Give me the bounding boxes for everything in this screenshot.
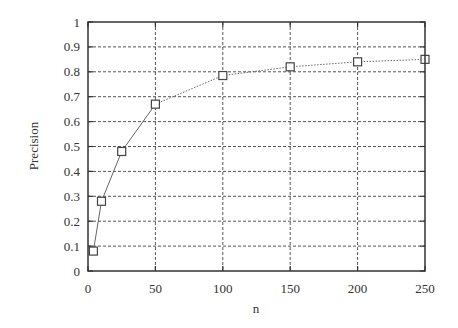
y-tick-label: 0.6: [64, 114, 81, 129]
y-axis-title: Precision: [26, 121, 41, 170]
series-line-segment: [155, 76, 222, 105]
series-line-segment: [101, 151, 121, 201]
y-tick-label: 0.3: [64, 189, 80, 204]
x-axis-tick-labels: 050100150200250: [85, 281, 435, 296]
data-series: [89, 55, 429, 255]
y-axis-tick-labels: 00.10.20.30.40.50.60.70.80.91: [64, 15, 81, 279]
series-line-segment: [223, 67, 290, 76]
y-tick-label: 0.2: [64, 214, 80, 229]
y-tick-label: 0.7: [64, 89, 81, 104]
x-tick-label: 50: [149, 281, 162, 296]
series-line-segment: [93, 201, 101, 251]
x-tick-label: 150: [280, 281, 300, 296]
y-tick-label: 0.5: [64, 139, 80, 154]
y-tick-label: 0.4: [64, 164, 81, 179]
x-axis-title: n: [253, 301, 260, 316]
square-marker-icon: [97, 197, 105, 205]
y-tick-label: 0.1: [64, 239, 80, 254]
series-line-segment: [290, 62, 357, 67]
square-marker-icon: [219, 72, 227, 80]
grid-lines: [88, 22, 425, 271]
precision-chart: 050100150200250 00.10.20.30.40.50.60.70.…: [0, 0, 458, 328]
square-marker-icon: [118, 147, 126, 155]
x-tick-label: 250: [415, 281, 435, 296]
y-tick-label: 0.9: [64, 39, 80, 54]
square-marker-icon: [151, 100, 159, 108]
square-marker-icon: [286, 63, 294, 71]
y-tick-label: 0.8: [64, 64, 80, 79]
square-marker-icon: [89, 247, 97, 255]
x-tick-label: 0: [85, 281, 92, 296]
series-line-segment: [358, 59, 425, 61]
square-marker-icon: [354, 58, 362, 66]
x-tick-label: 100: [213, 281, 233, 296]
series-line-segment: [122, 104, 156, 151]
y-tick-label: 0: [74, 264, 81, 279]
y-tick-label: 1: [74, 15, 81, 30]
x-tick-label: 200: [348, 281, 368, 296]
